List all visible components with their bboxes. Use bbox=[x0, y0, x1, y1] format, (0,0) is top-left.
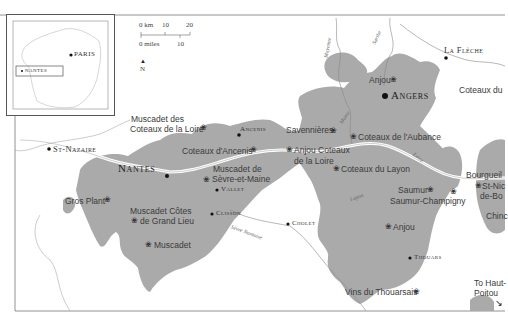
appellation-gros-plant: Gros Plant bbox=[65, 197, 105, 206]
clisson-dot bbox=[210, 212, 213, 215]
region-anjou bbox=[294, 54, 455, 304]
appellation-st-nicolas-2: de-Bo bbox=[480, 192, 503, 201]
cholet-dot bbox=[286, 222, 289, 225]
town-st-nazaire-label: St-Nazaire bbox=[53, 145, 96, 154]
grape-icon: ❀ bbox=[350, 133, 357, 141]
grape-icon: ❀ bbox=[145, 241, 152, 249]
grape-icon: ❀ bbox=[200, 124, 207, 132]
angers-dot bbox=[382, 93, 388, 99]
town-nantes-label: Nantes bbox=[118, 163, 155, 174]
appellation-haut-poitou-2: Poitou bbox=[474, 289, 498, 298]
region-anjou-north bbox=[324, 53, 367, 83]
appellation-coteaux-du-loir: Coteaux du bbox=[459, 86, 502, 95]
grape-icon: ❀ bbox=[104, 196, 111, 204]
france-outline bbox=[7, 15, 114, 115]
appellation-vins-thouarsais: Vins du Thouarsais bbox=[345, 288, 417, 297]
grape-icon: ❀ bbox=[333, 165, 340, 173]
scale-miles-label: 0 miles bbox=[139, 41, 159, 48]
appellation-muscadet-coteaux-loire-1: Muscadet des bbox=[131, 115, 184, 124]
town-ancenis-label: Ancenis bbox=[240, 126, 266, 133]
appellation-haut-poitou-1: To Haut- bbox=[474, 279, 506, 288]
la-fleche-dot bbox=[444, 56, 448, 60]
appellation-muscadet-grand-lieu-2: de Grand Lieu bbox=[140, 217, 194, 226]
st-nazaire-dot bbox=[47, 147, 51, 151]
nantes-dot bbox=[165, 174, 169, 178]
town-clisson-label: Clisson bbox=[216, 210, 241, 217]
appellation-coteaux-aubance: Coteaux de l'Aubance bbox=[358, 133, 441, 142]
direction-arrow-icon: ↘ bbox=[495, 299, 503, 308]
scale-miles-10: 10 bbox=[177, 41, 184, 48]
north-arrow-icon: ▲ bbox=[140, 58, 146, 64]
appellation-anjou-coteaux-loire-2: de la Loire bbox=[294, 157, 334, 166]
appellation-st-nicolas-1: St-Nic bbox=[482, 182, 505, 191]
appellation-saumur: Saumur bbox=[398, 186, 428, 195]
town-angers-label: Angers bbox=[391, 90, 429, 101]
town-la-fleche-label: La Flèche bbox=[444, 46, 483, 55]
appellation-chinon: Chinc bbox=[486, 212, 508, 221]
appellation-saumur-champigny: Saumur-Champigny bbox=[390, 197, 466, 206]
appellation-muscadet-grand-lieu-1: Muscadet Côtes bbox=[130, 207, 191, 216]
town-vallet-label: Vallet bbox=[221, 186, 244, 193]
grape-icon: ❀ bbox=[390, 76, 397, 84]
grape-icon: ❀ bbox=[475, 182, 482, 190]
appellation-savennieres: Savennières bbox=[286, 126, 333, 135]
scale-km-20: 20 bbox=[186, 22, 193, 29]
grape-icon: ❀ bbox=[413, 288, 420, 296]
grape-icon: ❀ bbox=[286, 146, 293, 154]
grape-icon: ❀ bbox=[250, 146, 257, 154]
scale-km-label: 0 km bbox=[139, 22, 153, 29]
appellation-muscadet-coteaux-loire-2: Coteaux de la Loire bbox=[130, 125, 204, 134]
appellation-anjou-south: Anjou bbox=[393, 223, 415, 232]
coastline-south bbox=[35, 215, 70, 311]
vallet-dot bbox=[215, 188, 218, 191]
appellation-anjou-coteaux-loire-1: Anjou Coteaux bbox=[294, 146, 350, 155]
grape-icon: ❀ bbox=[427, 186, 434, 194]
north-label: N bbox=[140, 66, 145, 73]
appellation-muscadet-sevre-2: Sèvre-et-Maine bbox=[212, 175, 270, 184]
grape-icon: ❀ bbox=[450, 188, 457, 196]
appellation-bourgueil: Bourgueil bbox=[466, 171, 502, 180]
grape-icon: ❀ bbox=[131, 217, 138, 225]
town-thouars-label: Thouars bbox=[414, 254, 442, 261]
grape-icon: ❀ bbox=[385, 223, 392, 231]
grape-icon: ❀ bbox=[203, 176, 210, 184]
scale-bar bbox=[141, 32, 190, 38]
appellation-muscadet: Muscadet bbox=[154, 241, 191, 250]
scale-km-10: 10 bbox=[162, 22, 169, 29]
town-cholet-label: Cholet bbox=[292, 220, 315, 227]
inset-france-map: PARIS NANTES bbox=[6, 14, 115, 116]
appellation-coteaux-layon: Coteaux du Layon bbox=[341, 165, 410, 174]
appellation-anjou-north: Anjou bbox=[369, 76, 391, 85]
thouars-dot bbox=[408, 256, 411, 259]
inset-paris-label: PARIS bbox=[74, 51, 95, 58]
appellation-muscadet-sevre-1: Muscadet de bbox=[213, 165, 262, 174]
vineyard-areas bbox=[63, 53, 505, 311]
grape-icon: ❀ bbox=[330, 127, 337, 135]
ancenis-dot bbox=[237, 133, 241, 137]
inset-nantes-label: NANTES bbox=[25, 68, 47, 73]
appellation-coteaux-ancenis: Coteaux d'Ancenis bbox=[182, 147, 253, 156]
